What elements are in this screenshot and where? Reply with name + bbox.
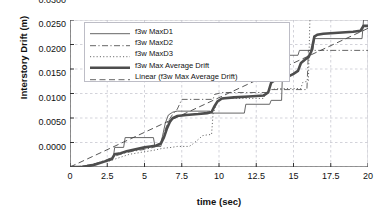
x-axis-tick-labels: 02.557.51012.51517.520 [70, 170, 368, 184]
legend-item: Linear (f3w Max Average Drift) [88, 71, 286, 82]
legend-item: f3w Max Average Drift [88, 60, 286, 71]
y-axis-tick-label: 0.0150 [38, 69, 66, 78]
x-axis-tick-label: 7.5 [175, 171, 188, 181]
y-axis-tick-labels: 0.00000.00500.01000.01500.02000.02500.03… [0, 0, 66, 147]
y-axis-tick-label: 0.0000 [38, 143, 66, 152]
legend-label: f3w Max Average Drift [135, 61, 209, 70]
legend-label: f3w MaxD1 [135, 27, 173, 36]
x-axis-tick-label: 5 [142, 171, 147, 181]
y-axis-tick-label: 0.0300 [38, 0, 66, 5]
legend-label: f3w MaxD2 [135, 38, 173, 47]
x-axis-tick-label: 17.5 [322, 171, 340, 181]
y-axis-tick-label: 0.0200 [38, 45, 66, 54]
legend-swatch [88, 48, 132, 59]
legend-item: f3w MaxD3 [88, 48, 286, 59]
x-axis-tick-label: 2.5 [101, 171, 114, 181]
y-axis-tick-label: 0.0250 [38, 20, 66, 29]
legend-swatch [88, 37, 132, 48]
legend-item: f3w MaxD2 [88, 37, 286, 48]
x-axis-tick-label: 20 [363, 171, 373, 181]
legend-label: Linear (f3w Max Average Drift) [135, 72, 237, 81]
legend-label: f3w MaxD3 [135, 49, 173, 58]
y-axis-tick-label: 0.0050 [38, 118, 66, 127]
y-axis-tick-label: 0.0100 [38, 94, 66, 103]
legend-swatch [88, 26, 132, 37]
legend: f3w MaxD1f3w MaxD2f3w MaxD3f3w Max Avera… [84, 22, 290, 82]
x-axis-tick-label: 15 [288, 171, 298, 181]
legend-item: f3w MaxD1 [88, 26, 286, 37]
legend-swatch [88, 60, 132, 71]
x-axis-tick-label: 10 [214, 171, 224, 181]
legend-swatch [88, 71, 132, 82]
x-axis-label: time (sec) [70, 196, 368, 207]
x-axis-tick-label: 0 [67, 171, 72, 181]
x-axis-tick-label: 12.5 [247, 171, 265, 181]
chart-figure: Interstory Drift (m) 0.00000.00500.01000… [0, 0, 384, 215]
